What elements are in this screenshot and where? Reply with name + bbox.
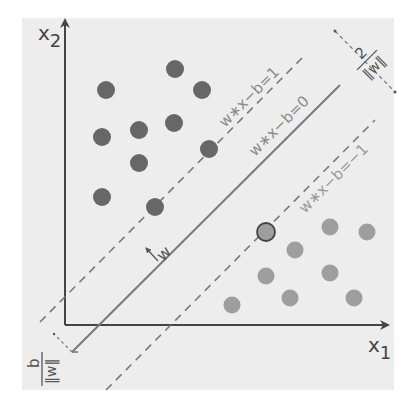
data-point	[130, 121, 148, 139]
offset-bracket-line	[54, 334, 72, 352]
margin-width-label: 2 ‖w‖	[344, 37, 390, 83]
offset-label: b ‖w‖	[25, 352, 60, 386]
data-point	[346, 290, 363, 307]
data-point	[93, 128, 111, 146]
support-vector-a	[200, 140, 218, 158]
support-vector-a	[146, 198, 164, 216]
data-point	[97, 81, 115, 99]
margin-width-dot-top	[334, 30, 337, 33]
data-point	[282, 290, 299, 307]
offset-bracket-dot	[53, 333, 55, 335]
data-point	[322, 265, 339, 282]
data-point	[166, 60, 184, 78]
class-a-points	[93, 60, 218, 216]
data-point	[224, 297, 241, 314]
offset-numerator: b	[25, 358, 43, 368]
data-point	[165, 114, 183, 132]
data-point	[322, 219, 339, 236]
class-b-points	[224, 219, 376, 314]
hyperplane-line	[72, 85, 340, 352]
offset-denominator: ‖w‖	[43, 359, 60, 384]
data-point	[258, 268, 275, 285]
data-point	[130, 154, 148, 172]
normal-vector-label: w	[152, 242, 175, 265]
svm-diagram: x2 x1 w∗x−b=1 w∗x−b=0 w∗x−b=−1 w 2 ‖w‖ b…	[0, 0, 415, 411]
data-point	[287, 242, 304, 259]
lower-margin-label: w∗x−b=−1	[295, 140, 372, 217]
margin-width-dot-bottom	[394, 91, 397, 94]
y-axis-label: x2	[38, 21, 61, 51]
x-axis-label: x1	[368, 333, 391, 363]
data-point	[359, 224, 376, 241]
data-point	[93, 188, 111, 206]
data-point	[193, 81, 211, 99]
support-vector-b	[257, 223, 275, 241]
